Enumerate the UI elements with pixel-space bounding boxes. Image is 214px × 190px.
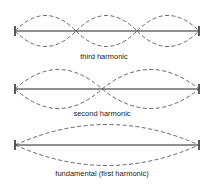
fundamental-label: fundamental (first harmonic) (55, 169, 148, 178)
third-harmonic-label: third harmonic (80, 52, 128, 61)
harmonics-diagram (0, 0, 214, 190)
second-harmonic-label: second harmonic (73, 109, 130, 118)
third-harmonic-string (15, 16, 199, 47)
second-harmonic-string (15, 70, 199, 109)
fundamental-string (15, 125, 199, 166)
